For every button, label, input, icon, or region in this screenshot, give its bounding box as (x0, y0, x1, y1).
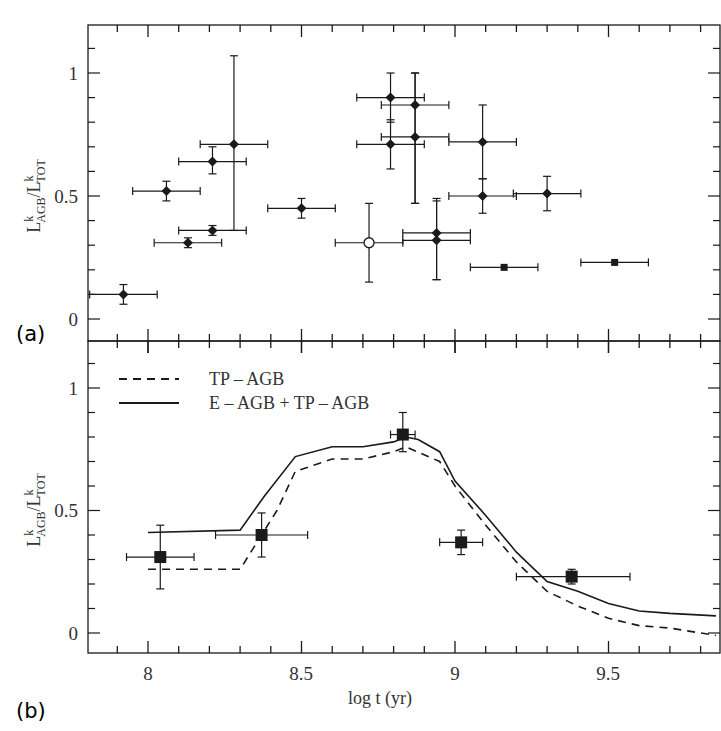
y-tick-label: 1 (69, 63, 79, 84)
x-tick-labels: 8 8.5 9 9.5 (143, 663, 620, 684)
square-marker-icon (397, 429, 409, 441)
square-marker-icon (501, 264, 508, 271)
x-tick-label: 8.5 (289, 663, 313, 684)
data-point (200, 56, 268, 231)
diamond-marker-icon (297, 203, 307, 213)
diamond-marker-icon (386, 93, 396, 103)
data-point (357, 73, 425, 122)
y-tick-label: 0.5 (54, 500, 78, 521)
y-tick-label: 0 (69, 623, 79, 644)
data-point (449, 105, 517, 179)
figure: LkAGB/LkTOT LkAGB/LkTOT (a) (b) 8 8.5 9 … (0, 0, 721, 731)
data-point (90, 285, 158, 305)
data-point (216, 513, 308, 557)
data-point (440, 530, 483, 555)
diamond-marker-icon (229, 139, 239, 149)
tp-agb-curve (148, 447, 716, 636)
legend-label-tp-agb: TP – AGB (209, 369, 284, 389)
data-point (268, 198, 336, 218)
square-marker-icon (611, 259, 618, 266)
y-tick-label: 1 (69, 378, 79, 399)
x-tick-label: 9 (450, 663, 460, 684)
panel-label-a: (a) (16, 322, 45, 346)
diamond-marker-icon (410, 132, 420, 142)
plot-frame (88, 25, 720, 341)
diamond-marker-icon (183, 238, 193, 248)
data-point (470, 263, 538, 271)
square-marker-icon (154, 551, 166, 563)
data-point (403, 198, 471, 279)
data-point (516, 569, 630, 584)
data-point (381, 73, 449, 203)
legend: TP – AGB E – AGB + TP – AGB (119, 369, 369, 413)
svg-text:LkAGB/LkTOT: LkAGB/LkTOT (22, 159, 48, 233)
square-marker-icon (256, 529, 268, 541)
diamond-marker-icon (118, 289, 128, 299)
diamond-marker-icon (207, 225, 217, 235)
y-axis-title-a: LkAGB/LkTOT (22, 159, 48, 233)
svg-text:LkAGB/LkTOT: LkAGB/LkTOT (22, 473, 48, 547)
x-axis-title: log t (yr) (348, 688, 412, 709)
e-agb-tp-agb-curve (148, 437, 716, 616)
data-point (335, 203, 403, 282)
data-point (357, 120, 425, 169)
plot-frame (88, 341, 720, 653)
data-point (581, 258, 649, 266)
y-tick-label: 0.5 (54, 186, 78, 207)
y-tick-labels-b: 0 0.5 1 (54, 378, 78, 644)
y-tick-label: 0 (69, 309, 79, 330)
open-circle-marker-icon (364, 238, 374, 248)
data-point (179, 147, 247, 174)
diamond-marker-icon (542, 189, 552, 199)
data-point (154, 238, 222, 248)
panel-label-b: (b) (16, 699, 46, 723)
legend-label-e-agb-tp-agb: E – AGB + TP – AGB (209, 393, 369, 413)
data-point (391, 413, 416, 452)
diamond-marker-icon (432, 235, 442, 245)
square-marker-icon (455, 536, 467, 548)
diamond-marker-icon (478, 191, 488, 201)
panel-b (88, 341, 720, 653)
square-marker-icon (566, 571, 578, 583)
data-point (513, 176, 581, 210)
diamond-marker-icon (478, 137, 488, 147)
diamond-marker-icon (161, 186, 171, 196)
data-point (127, 525, 195, 589)
x-tick-label: 8 (143, 663, 153, 684)
y-axis-title-b: LkAGB/LkTOT (22, 473, 48, 547)
diamond-marker-icon (207, 157, 217, 167)
panel-a (88, 25, 720, 353)
data-point (133, 181, 201, 201)
diamond-marker-icon (386, 139, 396, 149)
x-tick-label: 9.5 (596, 663, 620, 684)
y-tick-labels-a: 0 0.5 1 (54, 63, 78, 330)
data-point (449, 179, 517, 213)
